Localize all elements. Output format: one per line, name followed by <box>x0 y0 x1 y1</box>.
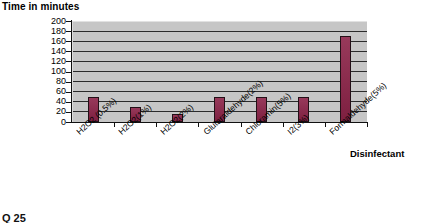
x-axis-category-label: H2O2 (0.5%) <box>75 96 118 136</box>
x-axis-category-label: I2(3%) <box>286 113 311 137</box>
scan-artifact: Q 25 <box>2 212 26 223</box>
x-axis-labels: H2O2 (0.5%)H2O2(1%)H2O2(2%)Glutaraldehyd… <box>0 0 423 223</box>
x-axis-category-label: H2O2(2%) <box>159 103 195 137</box>
x-axis-category-label: H2O2(1%) <box>117 103 153 137</box>
x-axis-category-label: Formaldehyde(5%) <box>328 81 388 137</box>
bar-chart: Time in minutes Disinfectant 20018016014… <box>0 0 423 223</box>
